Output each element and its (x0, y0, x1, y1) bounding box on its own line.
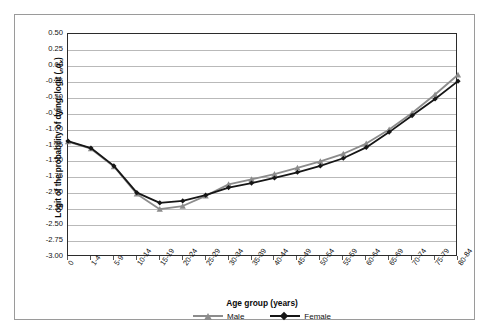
series-line-male (68, 75, 458, 209)
legend-label: Female (304, 312, 331, 321)
y-axis-tick-label: -3.00 (33, 252, 63, 260)
legend-entry-female[interactable]: Female (270, 311, 331, 321)
legend-marker-diamond-icon (280, 312, 288, 320)
legend-swatch-female-icon (270, 311, 300, 321)
data-point-female (157, 200, 162, 205)
legend-label: Male (227, 312, 244, 321)
y-axis-tick-label: -1.75 (33, 172, 63, 180)
data-point-female (318, 163, 323, 168)
data-point-female (180, 198, 185, 203)
series-line-female (68, 81, 458, 203)
legend-swatch-male-icon (193, 311, 223, 321)
y-axis-tick-label: -2.00 (33, 188, 63, 196)
x-axis-tick-label: 5-9 (112, 253, 126, 267)
legend-marker-triangle-icon (204, 313, 212, 320)
x-axis-tick-label: 0 (66, 259, 76, 268)
y-axis-tick-label: -0.25 (33, 77, 63, 85)
chart-legend: MaleFemale (67, 311, 457, 321)
series-layer (68, 34, 458, 257)
figure-frame: Logit of the probability of dying: logit… (14, 14, 475, 320)
x-axis-title: Age group (years) (67, 298, 457, 308)
chart-area: Logit of the probability of dying: logit… (15, 15, 476, 321)
y-axis-tick-label: -1.25 (33, 141, 63, 149)
legend-entry-male[interactable]: Male (193, 311, 244, 321)
x-axis-tick-label: 1-4 (89, 253, 103, 267)
data-point-male (455, 72, 461, 78)
y-axis-tick-label: -0.50 (33, 93, 63, 101)
y-axis-tick-label: -1.00 (33, 125, 63, 133)
y-axis-tick-label: 0.00 (33, 61, 63, 69)
y-axis-tick-labels: 0.500.250.00-0.25-0.50-0.75-1.00-1.25-1.… (31, 15, 63, 321)
y-axis-tick-label: -2.25 (33, 204, 63, 212)
data-point-female (295, 170, 300, 175)
x-axis-tick-label: 80-84 (456, 247, 474, 268)
y-axis-tick-label: -1.50 (33, 156, 63, 164)
y-axis-tick-label: 0.25 (33, 45, 63, 53)
y-axis-tick-label: -2.50 (33, 220, 63, 228)
y-axis-tick-label: -0.75 (33, 109, 63, 117)
y-axis-tick-label: -2.75 (33, 236, 63, 244)
y-axis-tick-label: 0.50 (33, 29, 63, 37)
plot-box (67, 33, 457, 256)
